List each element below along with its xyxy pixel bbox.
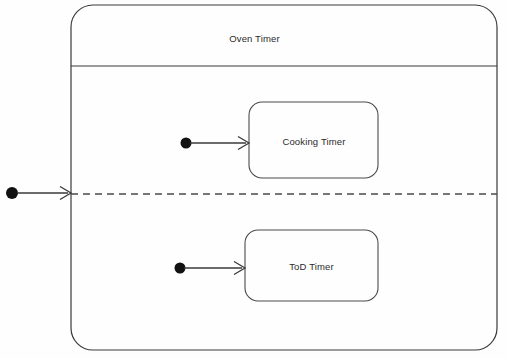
- initial-pseudostate-cooking-icon[interactable]: [181, 138, 192, 149]
- initial-pseudostate-tod-icon[interactable]: [175, 263, 186, 274]
- cooking-timer-state-name: Cooking Timer: [249, 136, 379, 147]
- state-diagram: [0, 0, 509, 358]
- initial-pseudostate-oven-timer-icon[interactable]: [6, 187, 18, 199]
- oven-timer-state-name: Oven Timer: [0, 33, 509, 44]
- tod-timer-state-name: ToD Timer: [245, 261, 378, 272]
- diagram-canvas: Oven Timer Cooking Timer ToD Timer: [0, 0, 509, 358]
